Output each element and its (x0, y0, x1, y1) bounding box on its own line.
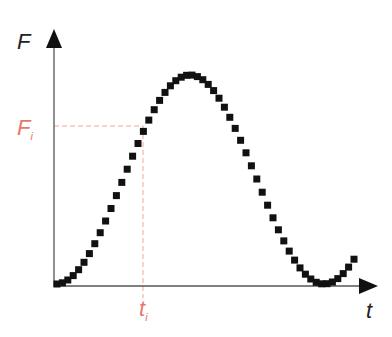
data-point (340, 270, 347, 277)
data-point (253, 176, 260, 183)
data-point (248, 162, 255, 169)
data-point (270, 214, 277, 221)
data-point (226, 114, 233, 121)
data-point (221, 104, 228, 111)
data-point (129, 153, 136, 160)
ti-label: ti (139, 296, 148, 323)
x-axis-label: t (366, 298, 373, 323)
data-point (275, 226, 282, 233)
data-point (113, 192, 120, 199)
data-point (210, 87, 217, 94)
data-point (162, 89, 169, 96)
data-point (243, 149, 250, 156)
data-point (81, 259, 88, 266)
data-point (140, 128, 147, 135)
y-axis-label: F (17, 29, 32, 54)
data-point (291, 257, 298, 264)
data-point (280, 237, 287, 244)
data-point (216, 95, 223, 102)
data-point (151, 106, 158, 113)
data-point (91, 240, 98, 247)
data-point (156, 97, 163, 104)
data-point (102, 218, 109, 225)
data-point (124, 166, 131, 173)
data-point (97, 229, 104, 236)
data-point (345, 264, 352, 271)
data-point (75, 266, 82, 273)
data-point (259, 189, 266, 196)
data-point (264, 202, 271, 209)
chart: F t Fi ti (0, 0, 392, 337)
data-point (297, 264, 304, 271)
x-axis-arrow-icon (359, 278, 378, 294)
data-point (86, 250, 93, 257)
data-point (135, 140, 142, 147)
fi-label: Fi (17, 115, 33, 142)
data-markers (54, 72, 358, 288)
data-point (351, 256, 358, 263)
y-axis-arrow-icon (46, 29, 62, 48)
data-point (232, 125, 239, 132)
data-point (108, 205, 115, 212)
data-point (286, 248, 293, 255)
data-point (118, 179, 125, 186)
data-point (145, 117, 152, 124)
data-point (205, 81, 212, 88)
data-point (237, 137, 244, 144)
